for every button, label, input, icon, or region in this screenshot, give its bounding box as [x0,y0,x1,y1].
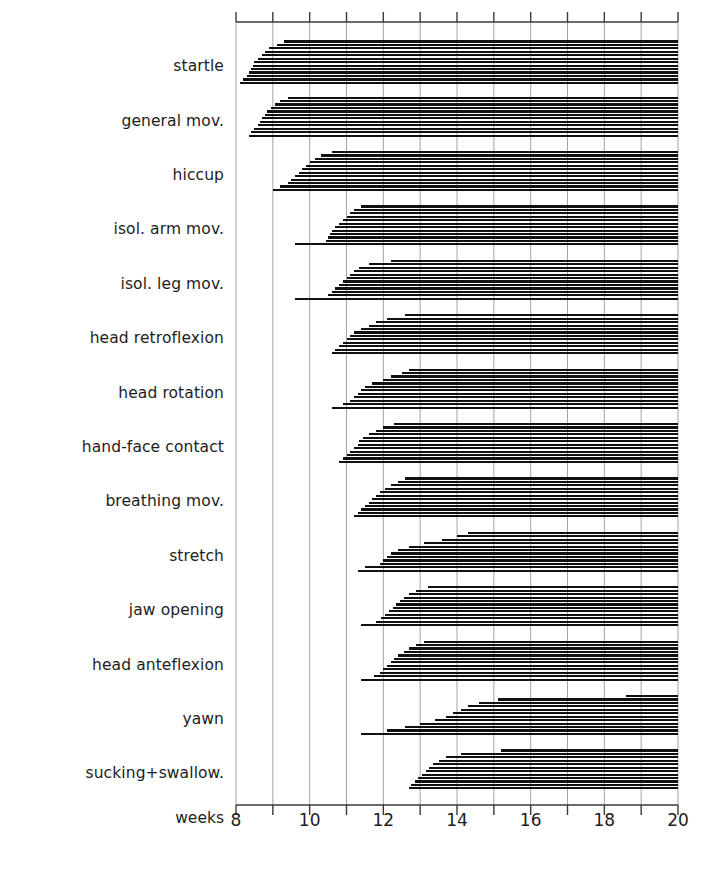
x-tick-label-16: 16 [520,810,542,830]
category-label-jaw-opening: jaw opening [129,601,224,619]
row-startle [240,42,678,83]
category-label-sucking-swallow-: sucking+swallow. [86,764,224,782]
grid-lines [236,22,678,805]
fetal-movement-chart: startlegeneral mov.hiccupisol. arm mov.i… [0,0,708,869]
row-hand-face-contact [339,424,678,462]
category-label-head-retroflexion: head retroflexion [90,329,224,347]
data-rows [240,42,678,789]
top-axis [236,12,678,22]
category-label-general-mov-: general mov. [121,112,224,130]
category-label-isol-leg-mov-: isol. leg mov. [120,275,224,293]
row-stretch [358,533,678,571]
x-tick-label-18: 18 [594,810,616,830]
row-general-mov- [249,98,678,136]
x-tick-label-8: 8 [231,810,242,830]
x-tick-label-12: 12 [373,810,395,830]
category-label-hand-face-contact: hand-face contact [82,438,224,456]
x-axis-title: weeks [175,809,224,827]
row-head-anteflexion [361,642,678,680]
row-sucking-swallow- [409,750,678,788]
category-label-breathing-mov-: breathing mov. [105,492,224,510]
x-tick-label-20: 20 [667,810,689,830]
row-hiccup [273,152,678,190]
row-breathing-mov- [354,478,678,516]
category-label-hiccup: hiccup [173,166,224,184]
category-label-stretch: stretch [169,547,224,565]
x-tick-label-10: 10 [299,810,321,830]
row-jaw-opening [361,587,678,625]
row-isol-arm-mov- [295,206,678,244]
category-label-yawn: yawn [182,710,224,728]
chart-canvas [0,0,708,869]
category-label-head-rotation: head rotation [118,384,224,402]
row-isol-leg-mov- [295,261,678,299]
category-label-isol-arm-mov-: isol. arm mov. [113,220,224,238]
category-label-startle: startle [173,57,224,75]
row-yawn [361,696,678,734]
x-tick-label-14: 14 [446,810,468,830]
category-label-head-anteflexion: head anteflexion [92,656,224,674]
